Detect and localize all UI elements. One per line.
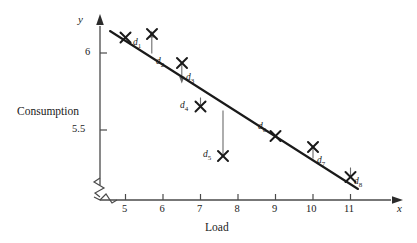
residual-label-d7-index: 7: [322, 160, 326, 168]
x-tick-label-10: 10: [306, 204, 317, 215]
x-axis-variable-label: x: [397, 203, 402, 214]
residual-label-d1-index: 1: [138, 42, 142, 50]
residual-label-d3: d3: [186, 73, 194, 85]
y-axis-variable-label: y: [78, 14, 83, 25]
residual-label-d5-index: 5: [208, 154, 212, 162]
y-tick-label-6: 6: [85, 47, 90, 58]
residual-label-d4: d4: [180, 101, 188, 113]
data-point-d6: [271, 131, 281, 141]
residual-label-d3-index: 3: [191, 77, 195, 85]
residual-label-d2-index: 2: [161, 61, 165, 69]
x-tick-label-7: 7: [197, 204, 202, 215]
x-tick-label-11: 11: [344, 204, 354, 215]
residual-label-d6-index: 6: [263, 126, 267, 134]
residual-label-d8-index: 8: [359, 181, 363, 189]
residual-label-d4-index: 4: [185, 105, 189, 113]
residual-label-d5: d5: [203, 150, 211, 162]
y-axis-break-icon: [94, 178, 104, 197]
residual-label-d8: d8: [354, 177, 362, 189]
x-tick-label-5: 5: [122, 204, 127, 215]
y-axis-arrowhead: [96, 14, 104, 25]
chart-figure: y x Consumption Load 6 5.5 5 6 7 8 9 10 …: [0, 0, 417, 243]
x-axis-title: Load: [205, 222, 229, 234]
residual-label-d2: d2: [156, 57, 164, 69]
residual-label-d1: d1: [133, 38, 141, 50]
x-tick-label-9: 9: [272, 204, 277, 215]
residual-label-d7: d7: [317, 156, 325, 168]
x-tick-label-8: 8: [235, 204, 240, 215]
x-axis-ticks: [126, 194, 351, 200]
y-tick-label-5-5: 5.5: [72, 124, 85, 135]
scatter-plot-canvas: [0, 0, 417, 243]
x-axis: [94, 194, 403, 204]
x-tick-label-6: 6: [160, 204, 165, 215]
y-axis: [94, 14, 107, 197]
residual-label-d6: d6: [258, 122, 266, 134]
y-axis-title: Consumption: [17, 106, 79, 118]
